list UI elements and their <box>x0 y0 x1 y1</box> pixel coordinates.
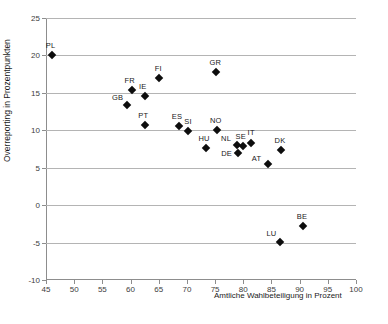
y-tick-mark <box>42 18 46 19</box>
data-point-label: ES <box>172 111 182 120</box>
data-point-label: DE <box>221 148 232 157</box>
data-point-label: LU <box>266 228 276 237</box>
y-tick-mark <box>42 168 46 169</box>
gridline <box>46 93 356 94</box>
gridline <box>46 205 356 206</box>
x-tick-mark <box>131 280 132 284</box>
y-tick-mark <box>42 93 46 94</box>
data-point-label: AT <box>252 153 261 162</box>
y-axis-title: Overreporting in Prozentpunkten <box>2 39 12 162</box>
gridline <box>46 55 356 56</box>
x-tick-label: 100 <box>349 285 362 294</box>
data-point-label: FI <box>155 63 162 72</box>
x-tick-mark <box>243 280 244 284</box>
y-tick-mark <box>42 243 46 244</box>
data-point-label: NL <box>221 133 231 142</box>
x-tick-label: 70 <box>182 285 191 294</box>
plot-frame <box>46 18 356 280</box>
data-point-label: GB <box>112 92 123 101</box>
data-point-label: IT <box>248 128 255 137</box>
x-tick-label: 45 <box>42 285 51 294</box>
scatter-chart: -10-50510152025 455055606570758085909510… <box>0 0 388 324</box>
x-tick-mark <box>215 280 216 284</box>
x-tick-mark <box>46 280 47 284</box>
x-tick-mark <box>356 280 357 284</box>
x-tick-mark <box>159 280 160 284</box>
y-tick-label: 15 <box>31 88 40 97</box>
data-point-label: SE <box>236 132 246 141</box>
x-axis-title: Amtliche Wahlbeteiligung in Prozent <box>214 291 342 300</box>
x-axis-line <box>46 279 356 280</box>
y-tick-label: 25 <box>31 14 40 23</box>
y-tick-label: 20 <box>31 51 40 60</box>
gridline <box>46 243 356 244</box>
data-point-label: PT <box>138 111 148 120</box>
x-tick-mark <box>187 280 188 284</box>
x-tick-mark <box>300 280 301 284</box>
y-tick-mark <box>42 205 46 206</box>
gridline <box>46 18 356 19</box>
x-tick-mark <box>102 280 103 284</box>
gridline <box>46 130 356 131</box>
data-point-label: PL <box>46 41 56 50</box>
x-tick-label: 60 <box>126 285 135 294</box>
x-tick-label: 55 <box>98 285 107 294</box>
gridline <box>46 168 356 169</box>
x-tick-mark <box>328 280 329 284</box>
data-point-label: GR <box>209 57 221 66</box>
data-point-label: DK <box>275 135 286 144</box>
y-tick-mark <box>42 130 46 131</box>
data-point-label: NO <box>210 115 222 124</box>
data-point-label: BE <box>297 212 307 221</box>
plot-area: -10-50510152025 455055606570758085909510… <box>46 18 356 280</box>
data-point-label: HU <box>198 134 209 143</box>
data-point-label: IE <box>139 81 147 90</box>
y-tick-label: 0 <box>36 201 40 210</box>
data-point-label: FR <box>124 75 134 84</box>
y-tick-label: 10 <box>31 126 40 135</box>
y-tick-label: 5 <box>36 163 40 172</box>
y-tick-label: -10 <box>28 276 40 285</box>
x-tick-mark <box>74 280 75 284</box>
y-tick-label: -5 <box>33 238 40 247</box>
x-tick-label: 50 <box>70 285 79 294</box>
x-tick-label: 65 <box>154 285 163 294</box>
y-tick-mark <box>42 55 46 56</box>
x-tick-mark <box>271 280 272 284</box>
data-point-label: SI <box>184 117 192 126</box>
